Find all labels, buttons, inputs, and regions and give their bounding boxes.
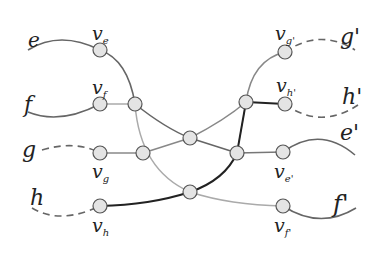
node-vf2: [276, 199, 290, 213]
label-g: g: [22, 137, 36, 162]
label-vg2: vg': [275, 22, 295, 46]
label-f: f: [22, 92, 36, 117]
edge-f-vf2: [190, 192, 283, 206]
node-e: [230, 146, 244, 160]
edge-f-vf: [28, 104, 100, 117]
label-vf: vf: [92, 76, 109, 100]
label-e2: e': [340, 120, 359, 145]
label-ve: ve: [92, 22, 109, 46]
edge-d-e: [237, 102, 246, 153]
label-vg: vg: [92, 160, 109, 184]
node-b: [136, 146, 150, 160]
node-vh: [93, 199, 107, 213]
node-a: [128, 97, 142, 111]
label-vh: vh: [92, 214, 109, 238]
edge-g-vg: [42, 146, 100, 153]
node-d: [239, 95, 253, 109]
label-h2: h': [342, 84, 362, 109]
edge-vh-f: [100, 192, 190, 206]
label-f2: f': [331, 190, 348, 218]
node-vg: [93, 146, 107, 160]
node-vh2: [278, 97, 292, 111]
node-c: [183, 131, 197, 145]
label-e: e: [28, 28, 40, 52]
edge-a-c: [135, 104, 190, 138]
node-vg2: [278, 45, 292, 59]
edge-c-d: [190, 102, 246, 138]
edge-e-f: [190, 153, 237, 192]
label-h: h: [30, 185, 44, 210]
node-ve2: [276, 145, 290, 159]
label-vh2: vh': [276, 74, 296, 98]
graph-diagram: e f g h g' h' e' f' ve vf vg vh vg' vh' …: [0, 0, 385, 256]
label-vf2: vf': [274, 214, 291, 238]
label-g2: g': [340, 24, 360, 49]
label-ve2: ve': [274, 160, 293, 184]
node-f: [183, 185, 197, 199]
